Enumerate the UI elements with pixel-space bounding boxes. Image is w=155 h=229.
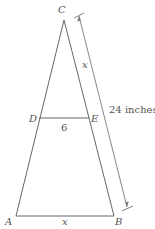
label-a: A: [4, 216, 12, 227]
label-c: C: [58, 4, 66, 15]
label-e: E: [90, 113, 99, 124]
label-ce-length: x: [82, 59, 88, 70]
label-d: D: [28, 113, 37, 124]
label-de-length: 6: [61, 122, 67, 133]
label-ab-length: x: [62, 216, 68, 227]
arrowhead-bottom-icon: [125, 202, 129, 208]
label-dimension: 24 inches: [109, 104, 155, 115]
dimension-tick-bottom: [122, 206, 133, 211]
label-b: B: [114, 216, 122, 227]
triangle-diagram: C D E A B 6 x x 24 inches: [0, 0, 155, 229]
arrowhead-top-icon: [77, 16, 81, 22]
